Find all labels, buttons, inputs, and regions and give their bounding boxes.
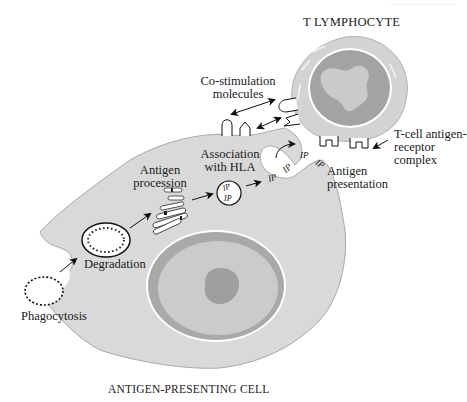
costim-label: Co-stimulation molecules	[178, 75, 298, 101]
presentation-label: Antigen presentation	[327, 165, 388, 191]
tcr-complex-1	[320, 136, 338, 146]
lymph-costim-receptor-2	[284, 114, 300, 126]
association-label-line2: with HLA	[190, 161, 270, 174]
costim-label-line2: molecules	[178, 88, 298, 101]
svg-text:IP: IP	[223, 194, 232, 203]
phagocytosis-label: Phagocytosis	[21, 310, 87, 323]
phagocytosed-particle	[25, 277, 63, 305]
presentation-label-line2: presentation	[327, 178, 388, 191]
tcr-label-line3: complex	[394, 154, 467, 167]
svg-text:IP: IP	[299, 150, 309, 160]
degradation-label: Degradation	[84, 258, 146, 271]
apc-costim-molecule-2	[240, 122, 250, 136]
tcr-complex-2	[350, 138, 368, 148]
corner-caption: ·························	[389, 0, 456, 9]
degradation-vesicle	[82, 223, 130, 257]
apc-title: ANTIGEN-PRESENTING CELL	[108, 383, 269, 395]
apc-costim-molecule-1	[222, 120, 232, 136]
tcr-label: T-cell antigen- receptor complex	[394, 128, 467, 167]
association-label: Association with HLA	[190, 148, 270, 174]
processing-label-line2: procession	[120, 177, 200, 190]
t-lymphocyte-title: T LYMPHOCYTE	[303, 15, 400, 30]
processing-label: Antigen procession	[120, 164, 200, 190]
svg-text:IP: IP	[280, 161, 294, 175]
